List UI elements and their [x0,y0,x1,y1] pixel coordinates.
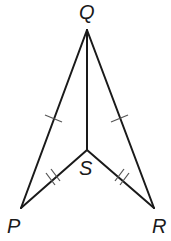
segment-QR [87,30,154,208]
vertex-label-R: R [152,215,166,237]
vertex-label-P: P [7,215,21,237]
vertex-label-Q: Q [79,1,95,23]
vertex-label-S: S [79,157,93,179]
geometry-diagram: Q S P R [0,0,171,241]
